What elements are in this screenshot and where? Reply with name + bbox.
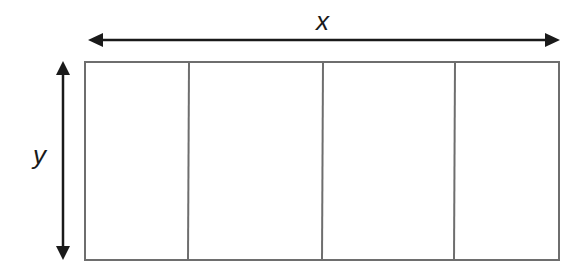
height-arrow (56, 61, 70, 260)
arrowhead-right-icon (545, 33, 560, 47)
arrowhead-down-icon (56, 246, 70, 260)
divider-2 (322, 62, 323, 260)
divider-3 (454, 62, 455, 260)
height-label: y (33, 142, 46, 168)
arrowhead-left-icon (88, 33, 103, 47)
divider-1 (188, 62, 189, 260)
arrowhead-up-icon (56, 61, 70, 75)
width-label: x (316, 8, 329, 34)
diagram-canvas (0, 0, 584, 277)
